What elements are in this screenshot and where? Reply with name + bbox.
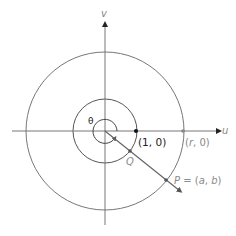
u-axis-label: u (222, 125, 228, 136)
polar-coordinate-diagram: u v θ (1, 0) (r, 0) Q P = (a, b) (0, 0, 236, 236)
theta-label: θ (88, 116, 94, 126)
unit-point-label: (1, 0) (138, 136, 166, 148)
r-point-label: (r, 0) (185, 137, 210, 148)
p-label: P = (a, b) (174, 175, 222, 186)
v-axis-label: v (101, 8, 108, 19)
unit-point-dot (134, 129, 138, 133)
r-point-dot (181, 129, 185, 133)
p-point-dot (164, 178, 168, 182)
q-point-dot (128, 149, 132, 153)
q-label: Q (126, 156, 134, 167)
